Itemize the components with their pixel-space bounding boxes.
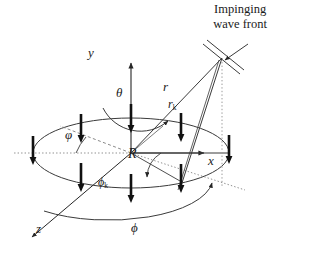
z-axis-label: z <box>36 222 41 236</box>
antenna-element[interactable] <box>226 135 233 164</box>
radius-label: R <box>128 147 137 162</box>
wavefront-glyph <box>203 40 248 74</box>
impinging-wave-front-caption: Impinging wave front <box>213 2 267 32</box>
wavefront-line-2 <box>207 40 244 70</box>
antenna-element[interactable] <box>78 114 85 143</box>
phi-k-subscript: k <box>104 181 108 190</box>
theta-angle-label: θ <box>116 86 122 100</box>
r-k-vector-line <box>181 58 222 186</box>
ray-group <box>131 58 222 190</box>
phi-azimuth-arc <box>44 183 212 220</box>
phi-k-angle-label: ϕk <box>98 176 108 189</box>
x-axis-label: x <box>208 154 214 168</box>
phi-k-arc <box>147 153 161 177</box>
y-axis-label: y <box>88 46 94 60</box>
wavefront-incidence-arrow <box>225 44 248 60</box>
antenna-element[interactable] <box>178 113 185 142</box>
phi-k-angle-group <box>131 153 180 181</box>
antenna-element[interactable] <box>128 174 135 203</box>
caption-line-2: wave front <box>213 17 267 31</box>
r-k-subscript: k <box>173 103 177 112</box>
caption-line-1: Impinging <box>214 2 266 16</box>
secondary-ray-line <box>178 60 219 190</box>
r-k-vector-label: rk <box>168 98 176 111</box>
varphi-angle-label: φ <box>65 128 72 142</box>
phi-angle-label: ϕ <box>131 221 138 235</box>
antenna-element[interactable] <box>78 163 85 192</box>
r-vector-label: r <box>163 80 168 94</box>
phi-azimuth-arc-group <box>44 153 245 220</box>
r-vector-line <box>131 58 222 153</box>
